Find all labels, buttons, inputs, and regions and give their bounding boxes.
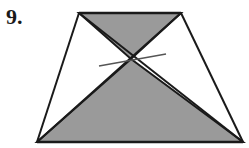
bottom-shaded-triangle [37,59,243,142]
trapezoid-figure [0,0,249,148]
